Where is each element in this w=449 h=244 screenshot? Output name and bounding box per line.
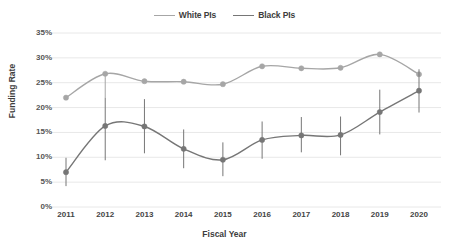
data-point[interactable] bbox=[416, 88, 421, 93]
data-point[interactable] bbox=[260, 137, 265, 142]
data-point[interactable] bbox=[103, 71, 108, 76]
data-point[interactable] bbox=[338, 132, 343, 137]
data-point[interactable] bbox=[103, 123, 108, 128]
data-point[interactable] bbox=[63, 170, 68, 175]
data-point[interactable] bbox=[142, 79, 147, 84]
data-point[interactable] bbox=[220, 82, 225, 87]
data-point[interactable] bbox=[63, 95, 68, 100]
y-tick-label: 20% bbox=[20, 103, 52, 112]
data-point[interactable] bbox=[377, 52, 382, 57]
y-tick-label: 5% bbox=[20, 177, 52, 186]
x-tick-label: 2017 bbox=[281, 210, 321, 219]
data-point[interactable] bbox=[220, 157, 225, 162]
data-point[interactable] bbox=[338, 65, 343, 70]
y-tick-label: 10% bbox=[20, 152, 52, 161]
trend-line bbox=[66, 91, 419, 173]
data-point[interactable] bbox=[181, 146, 186, 151]
series-black-pis bbox=[63, 69, 421, 186]
chart-container: White PIs Black PIs Funding Rate Fiscal … bbox=[0, 0, 449, 244]
y-tick-label: 25% bbox=[20, 78, 52, 87]
plot-area bbox=[0, 0, 449, 244]
x-tick-label: 2012 bbox=[85, 210, 125, 219]
series-white-pis bbox=[63, 52, 421, 100]
x-tick-label: 2019 bbox=[360, 210, 400, 219]
y-tick-label: 30% bbox=[20, 53, 52, 62]
x-tick-label: 2020 bbox=[399, 210, 439, 219]
data-point[interactable] bbox=[260, 64, 265, 69]
data-point[interactable] bbox=[299, 133, 304, 138]
data-point[interactable] bbox=[142, 124, 147, 129]
data-point[interactable] bbox=[377, 109, 382, 114]
data-point[interactable] bbox=[181, 79, 186, 84]
x-tick-label: 2011 bbox=[46, 210, 86, 219]
y-tick-label: 15% bbox=[20, 127, 52, 136]
grid-lines bbox=[52, 33, 441, 207]
x-tick-label: 2016 bbox=[242, 210, 282, 219]
x-tick-label: 2018 bbox=[321, 210, 361, 219]
x-tick-label: 2013 bbox=[124, 210, 164, 219]
y-tick-label: 35% bbox=[20, 28, 52, 37]
trend-line bbox=[66, 54, 419, 97]
data-point[interactable] bbox=[299, 66, 304, 71]
x-tick-label: 2015 bbox=[203, 210, 243, 219]
x-tick-label: 2014 bbox=[164, 210, 204, 219]
